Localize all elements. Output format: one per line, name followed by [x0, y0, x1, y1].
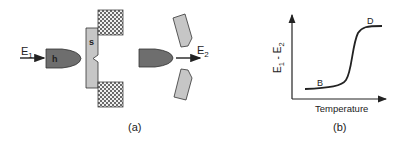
- point-label-d: D: [367, 16, 374, 26]
- fragment-lower-shape: [174, 69, 192, 100]
- panel-b-caption: (b): [333, 121, 346, 133]
- output-energy-label: E2: [197, 44, 209, 59]
- holder-block-top: [98, 10, 123, 35]
- x-axis-label: Temperature: [315, 103, 368, 114]
- y-axis-label: E1 - E2: [272, 42, 286, 73]
- panel-a: E1 h s E2 (a): [20, 10, 209, 133]
- point-label-b: B: [317, 78, 323, 88]
- transmitted-projectile-shape: [139, 49, 173, 67]
- projectile-label: h: [52, 54, 58, 64]
- panel-a-caption: (a): [128, 121, 141, 133]
- diagram-canvas: E1 h s E2 (a) E1 - E2: [0, 0, 412, 146]
- fragment-upper-shape: [173, 14, 192, 47]
- target-label: s: [89, 37, 94, 47]
- holder-block-bottom: [98, 82, 123, 107]
- panel-b: E1 - E2 B D Temperature (b): [272, 15, 386, 133]
